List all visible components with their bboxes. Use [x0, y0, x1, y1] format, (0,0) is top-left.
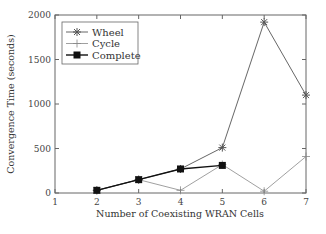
legend-label: Wheel: [92, 27, 124, 38]
legend: WheelCycleComplete: [62, 22, 141, 64]
series-complete: [93, 162, 226, 194]
x-tick-label: 7: [303, 197, 309, 207]
square-marker-icon: [93, 187, 100, 194]
square-marker-icon: [177, 165, 184, 172]
legend-label: Cycle: [92, 38, 120, 49]
y-tick-label: 0: [45, 188, 51, 198]
series-cycle: [93, 153, 310, 196]
y-axis-title: Convergence Time (seconds): [5, 34, 16, 173]
line-chart: 12345670500100015002000 WheelCycleComple…: [0, 0, 326, 234]
series-line: [97, 165, 222, 190]
square-marker-icon: [219, 162, 226, 169]
y-tick-label: 1000: [28, 99, 51, 109]
square-marker-icon: [74, 52, 81, 59]
x-axis-title: Number of Coexisting WRAN Cells: [96, 208, 264, 219]
square-marker-icon: [135, 176, 142, 183]
y-tick-label: 1500: [28, 55, 51, 65]
x-tick-label: 5: [219, 197, 225, 207]
x-tick-label: 3: [136, 197, 142, 207]
x-tick-label: 6: [261, 197, 267, 207]
x-tick-label: 1: [52, 197, 58, 207]
x-tick-label: 4: [178, 197, 184, 207]
y-tick-label: 500: [34, 144, 51, 154]
y-tick-label: 2000: [28, 10, 51, 20]
x-tick-label: 2: [94, 197, 100, 207]
series-line: [97, 157, 306, 192]
legend-label: Complete: [92, 50, 141, 61]
